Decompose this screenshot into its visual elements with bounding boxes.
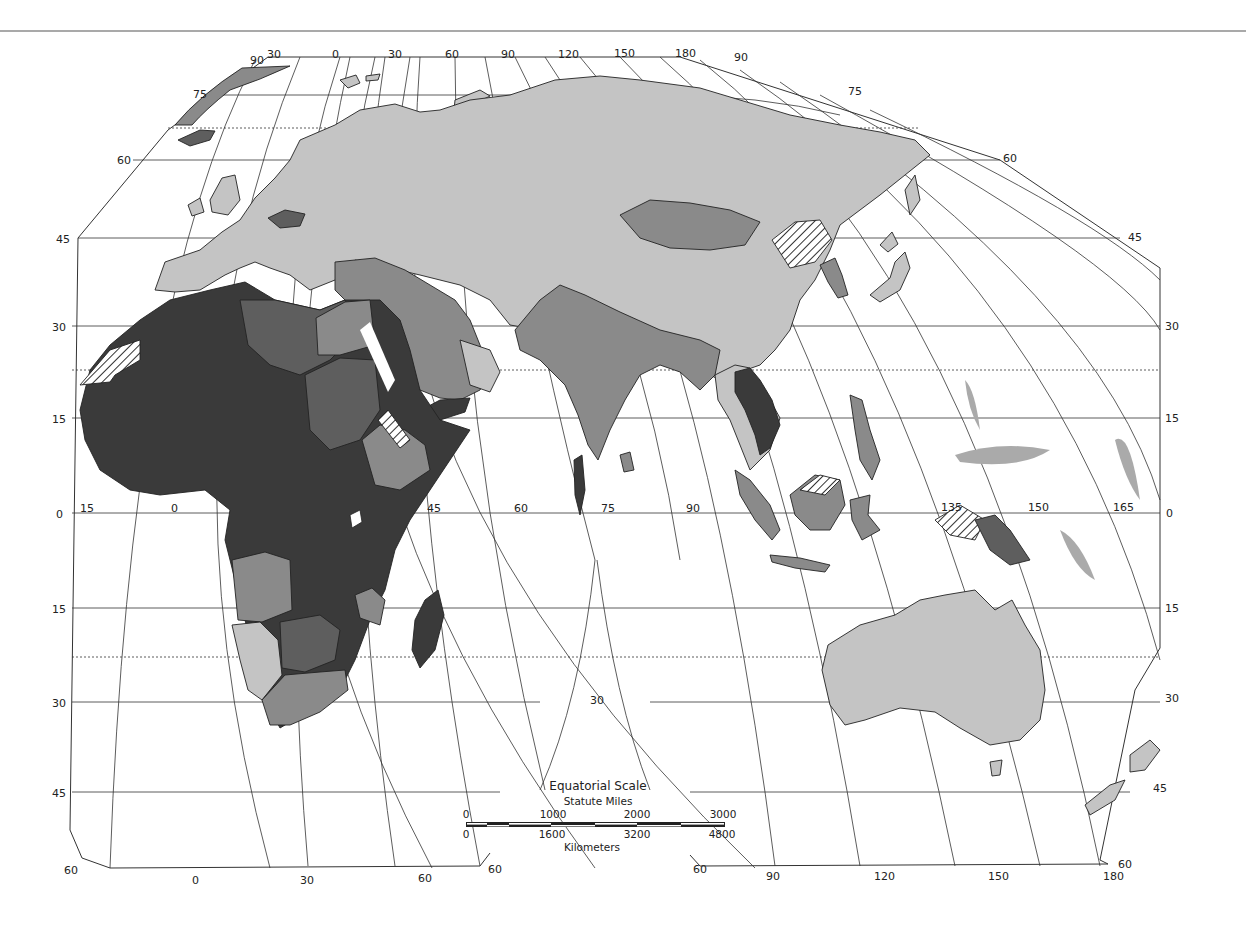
lon-top-30w: 30	[267, 48, 281, 61]
lon-eq-0: 0	[171, 502, 178, 515]
lon-top-150e: 150	[614, 47, 635, 60]
lat-label-right-s45: 45	[1153, 782, 1167, 795]
lon-top-0: 0	[332, 48, 339, 61]
australia	[822, 590, 1045, 745]
new-zealand	[1130, 740, 1160, 772]
lat-label-15: 15	[52, 413, 66, 426]
new-guinea-east	[975, 515, 1030, 565]
lon-bottom-30: 30	[300, 874, 314, 887]
scale-bar: Equatorial Scale Statute Miles 0 1000 20…	[463, 779, 737, 853]
lon-eq-90: 90	[686, 502, 700, 515]
scale-km-tick: 3200	[624, 828, 651, 840]
lon-eq-75: 75	[601, 502, 615, 515]
lon-top-120e: 120	[558, 48, 579, 61]
lon-eq-60: 60	[514, 502, 528, 515]
lat-label-45: 45	[56, 233, 70, 246]
lon-top-90e: 90	[501, 48, 515, 61]
lat-label-right-s15: 15	[1165, 602, 1179, 615]
japan	[870, 252, 910, 302]
madagascar	[412, 590, 444, 668]
lon-top-90-pole: 90	[734, 51, 748, 64]
lon-top-60e: 60	[445, 48, 459, 61]
micronesia	[955, 446, 1050, 464]
world-map-africa-asia: 75 60 45 30 15 0 15 30 45 60 75 60 45 30…	[0, 0, 1246, 931]
scale-miles-label: Statute Miles	[564, 795, 633, 807]
lon-top-90w: 90	[250, 54, 264, 67]
lat-label-s30: 30	[52, 697, 66, 710]
scale-km-tick: 4800	[709, 828, 736, 840]
lat-label-30: 30	[52, 321, 66, 334]
center-meridian-label: 30	[590, 694, 604, 707]
lon-bottom-60: 60	[418, 872, 432, 885]
scale-km-tick: 1600	[539, 828, 566, 840]
lon-eq-135: 135	[941, 501, 962, 514]
scale-title: Equatorial Scale	[549, 779, 646, 793]
lon-bottom-60-cusp-left: 60	[488, 863, 502, 876]
korea	[820, 258, 848, 298]
lon-eq-150: 150	[1028, 501, 1049, 514]
lon-bottom-90: 90	[766, 870, 780, 883]
lat-label-right-30: 30	[1165, 320, 1179, 333]
sulawesi	[850, 495, 880, 540]
lat-label-75: 75	[193, 88, 207, 101]
philippines	[850, 395, 880, 480]
lon-eq-15w: 15	[80, 502, 94, 515]
sumatra	[735, 470, 780, 540]
lat-label-right-15: 15	[1165, 412, 1179, 425]
british-isles	[210, 175, 240, 215]
angola	[232, 552, 292, 622]
marshall-islands	[1115, 439, 1140, 500]
scale-km-label: Kilometers	[564, 841, 620, 853]
scale-mile-tick: 1000	[540, 808, 567, 820]
lon-eq-165: 165	[1113, 501, 1134, 514]
lat-label-0: 0	[56, 508, 63, 521]
lon-top-30e: 30	[388, 48, 402, 61]
lat-label-s15: 15	[52, 603, 66, 616]
lat-label-right-s30: 30	[1165, 692, 1179, 705]
lat-label-s60: 60	[64, 864, 78, 877]
scale-mile-tick: 3000	[710, 808, 737, 820]
scale-mile-tick: 0	[463, 808, 470, 820]
lat-label-right-60: 60	[1003, 152, 1017, 165]
lon-bottom-180: 180	[1103, 870, 1124, 883]
iceland	[178, 130, 215, 146]
java	[770, 555, 830, 572]
lon-eq-45: 45	[427, 502, 441, 515]
lon-bottom-60-cusp-right: 60	[693, 863, 707, 876]
lon-bottom-150: 150	[988, 870, 1009, 883]
lon-bottom-120: 120	[874, 870, 895, 883]
lat-label-right-0: 0	[1166, 507, 1173, 520]
scale-mile-tick: 2000	[624, 808, 651, 820]
lat-label-right-75: 75	[848, 85, 862, 98]
lon-bottom-0: 0	[192, 874, 199, 887]
scale-km-tick: 0	[463, 828, 470, 840]
lat-label-s45: 45	[52, 787, 66, 800]
lat-label-right-45: 45	[1128, 231, 1142, 244]
landmasses	[80, 66, 1160, 815]
lon-top-180: 180	[675, 47, 696, 60]
lat-label-60: 60	[117, 154, 131, 167]
